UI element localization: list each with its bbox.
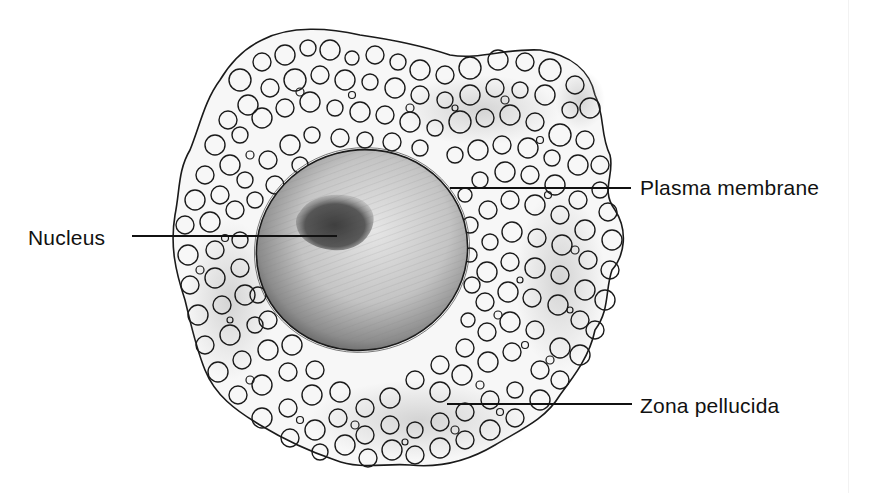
page-edge-divider bbox=[848, 0, 849, 493]
plasma-membrane-leader-line bbox=[450, 187, 631, 189]
zona-pellucida-leader-line bbox=[447, 403, 632, 405]
nucleus-label: Nucleus bbox=[28, 227, 105, 248]
plasma-membrane-label: Plasma membrane bbox=[640, 177, 819, 198]
oocyte-diagram: Nucleus Plasma membrane Zona pellucida bbox=[0, 0, 887, 493]
oocyte-illustration bbox=[0, 0, 887, 493]
nucleus-leader-line bbox=[132, 235, 337, 237]
zona-pellucida-label: Zona pellucida bbox=[640, 395, 779, 416]
